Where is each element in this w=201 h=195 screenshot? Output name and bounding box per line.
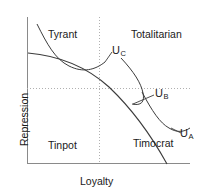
curve-label-ub: UB [155, 88, 168, 99]
indifference-curve-ub [121, 58, 144, 105]
curve-label-ua-base: U [180, 127, 188, 139]
curve-label-uc-base: U [112, 44, 120, 56]
curve-label-ub-base: U [155, 87, 163, 99]
region-label-totalitarian: Totalitarian [131, 29, 182, 40]
curve-label-uc-subscript: C [120, 49, 125, 58]
curve-label-uc: UC [112, 45, 125, 56]
curve-label-ua-subscript: A [188, 132, 193, 141]
indifference-curve-figure: Tyrant Totalitarian Tinpot Timocrat UC U… [0, 0, 201, 195]
region-label-timocrat: Timocrat [133, 138, 173, 149]
region-label-tyrant: Tyrant [48, 29, 77, 40]
curve-label-ua: UA [180, 128, 193, 139]
y-axis-title: Repression [19, 93, 30, 146]
x-axis-title: Loyalty [80, 176, 113, 187]
region-label-tinpot: Tinpot [48, 140, 77, 151]
leader-line-uc [105, 52, 112, 62]
curve-label-ub-subscript: B [163, 92, 168, 101]
